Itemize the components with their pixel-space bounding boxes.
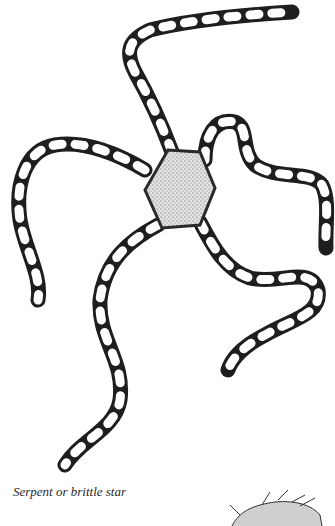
brittle-star-illustration bbox=[0, 0, 335, 526]
arm-lower-right bbox=[200, 222, 318, 370]
arm-left bbox=[19, 144, 145, 300]
central-disc bbox=[145, 150, 215, 228]
arm-lower-left bbox=[65, 225, 158, 465]
arm-right bbox=[205, 121, 327, 248]
partial-creature-illustration bbox=[230, 490, 322, 526]
figure-caption: Serpent or brittle star bbox=[13, 484, 126, 500]
